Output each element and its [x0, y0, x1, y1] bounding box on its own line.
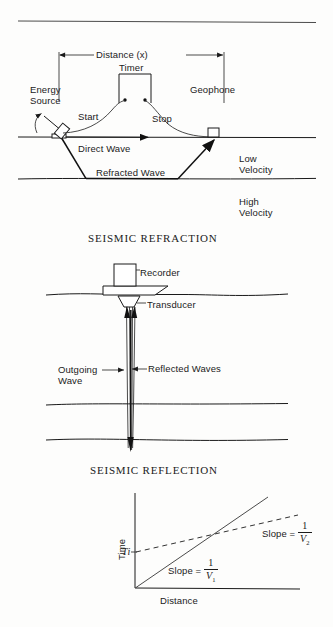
reflected-waves-label: Reflected Waves [148, 363, 221, 374]
refracted-wave-label: Refracted Wave [96, 167, 165, 178]
chart-x-axis-label: Distance [160, 595, 198, 606]
direct-wave-label: Direct Wave [78, 143, 130, 154]
timer-box [119, 74, 151, 103]
slope-fraction-direct: 1 V1 [204, 558, 218, 583]
reflector-line-2 [46, 439, 288, 440]
energy-source-hammer [35, 114, 69, 139]
chart-x-axis [135, 588, 300, 589]
low-velocity-label-line2: Velocity [239, 164, 273, 175]
reflection-caption: SEISMIC REFLECTION [90, 464, 218, 476]
recorder-box [114, 264, 136, 286]
timer-unit [119, 74, 151, 103]
boat-hull [103, 286, 168, 295]
reflection-diagram [46, 264, 288, 452]
stop-label: Stop [152, 113, 172, 124]
outgoing-wave-label-line1: Outgoing [58, 364, 97, 375]
outgoing-wave-label-line2: Wave [58, 375, 82, 386]
timer-terminal-start [123, 98, 126, 101]
transducer-body [118, 296, 140, 307]
low-velocity-label-line1: Low [239, 153, 257, 164]
top-horizontal-rule [18, 21, 316, 23]
high-velocity-label-line2: Velocity [239, 207, 273, 218]
wave-ray-bundle [124, 306, 137, 452]
slope-denominator-refracted: V2 [298, 534, 312, 547]
energy-source-label-line2: Source [30, 95, 61, 106]
slope-equals-direct: = [196, 565, 202, 576]
slope-subscript-direct: 1 [212, 576, 215, 583]
figure-page: Distance (x) Energy Source Timer Geophon… [0, 0, 333, 627]
hammer-swing-arc [35, 114, 41, 134]
slope-fraction-refracted: 1 V2 [298, 521, 312, 546]
water-surface-line [46, 294, 288, 296]
slope-numerator-refracted: 1 [298, 521, 312, 532]
refraction-caption: SEISMIC REFRACTION [88, 232, 218, 244]
recorder-label: Recorder [140, 267, 180, 278]
geophone-label: Geophone [190, 84, 235, 95]
geophone-body [208, 128, 219, 137]
slope-subscript-refracted: 2 [306, 539, 309, 546]
energy-source-label-line1: Energy [30, 84, 61, 95]
refracted-ray-up [178, 140, 214, 179]
reflector-line-1 [46, 404, 288, 406]
slope-word-direct: Slope [168, 565, 193, 576]
chart-intercept-time-label: Ti [122, 546, 131, 557]
timer-label: Timer [119, 62, 143, 73]
slope-numerator-direct: 1 [204, 558, 218, 569]
distance-dimension-label: Distance (x) [96, 49, 148, 60]
distance-dimension-text: Distance (x) [96, 49, 148, 60]
high-velocity-label-line1: High [239, 196, 259, 207]
transducer-label: Transducer [147, 299, 196, 310]
start-label: Start [78, 111, 99, 122]
slope-word-refracted: Slope [262, 528, 287, 539]
slope-denominator-direct: V1 [204, 571, 218, 584]
chart-slope-annotation-refracted: Slope = 1 V2 [262, 521, 312, 546]
slope-equals-refracted: = [290, 528, 296, 539]
chart-slope-annotation-direct: Slope = 1 V1 [168, 558, 218, 583]
